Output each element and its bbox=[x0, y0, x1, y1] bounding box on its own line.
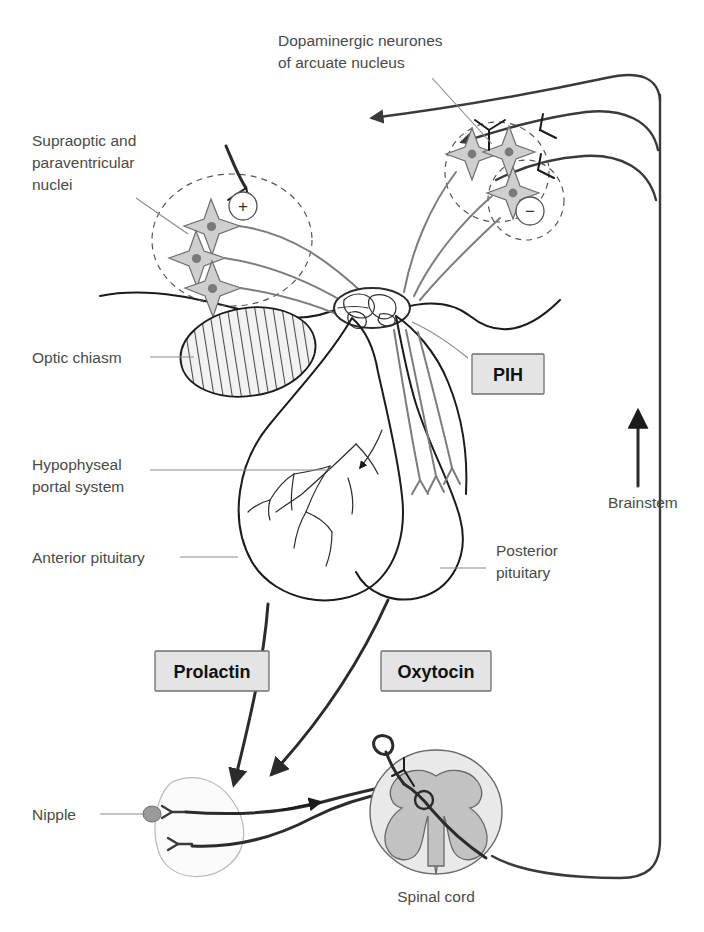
excitatory-sign-label: + bbox=[238, 197, 248, 216]
hypophyseal-label: Hypophyseal portal system bbox=[32, 456, 330, 495]
pih-box-label: PIH bbox=[493, 365, 523, 385]
hypophyseal-label-line2: portal system bbox=[32, 478, 124, 495]
hypophyseal-portal-vessels bbox=[248, 444, 378, 566]
supraoptic-label: Supraoptic and paraventricular nuclei bbox=[32, 132, 188, 234]
dopaminergic-label-line1: Dopaminergic neurones bbox=[278, 32, 443, 49]
excitatory-sign-badge: + bbox=[229, 192, 257, 220]
oxytocin-box-label: Oxytocin bbox=[397, 662, 474, 682]
inhibitory-sign-label: − bbox=[525, 202, 535, 221]
posterior-pituitary-label-line1: Posterior bbox=[496, 542, 558, 559]
oxytocin-box[interactable]: Oxytocin bbox=[381, 651, 491, 691]
oxytocin-arrow bbox=[272, 600, 388, 774]
posterior-pituitary-label-line2: pituitary bbox=[496, 564, 551, 581]
nipple-label-text: Nipple bbox=[32, 806, 76, 823]
spinal-cord-section bbox=[370, 736, 502, 874]
afferent-direction-arrow bbox=[282, 802, 320, 810]
optic-chiasm-label-text: Optic chiasm bbox=[32, 349, 122, 366]
inhibitory-sign-badge: − bbox=[516, 197, 544, 225]
anatomical-diagram: + bbox=[0, 0, 704, 932]
dopaminergic-label-line2: of arcuate nucleus bbox=[278, 54, 405, 71]
dopaminergic-label: Dopaminergic neurones of arcuate nucleus bbox=[278, 32, 492, 144]
pih-box[interactable]: PIH bbox=[472, 354, 544, 394]
median-eminence-plexus bbox=[334, 288, 410, 329]
prolactin-arrow bbox=[234, 604, 268, 784]
optic-chiasm-label: Optic chiasm bbox=[32, 349, 194, 366]
posterior-pituitary-shape bbox=[356, 316, 463, 600]
brainstem-label-text: Brainstem bbox=[608, 494, 678, 511]
diagram-canvas: + bbox=[0, 0, 704, 932]
brainstem-label: Brainstem bbox=[608, 494, 678, 511]
anterior-pituitary-label: Anterior pituitary bbox=[32, 549, 238, 566]
supraoptic-label-line3: nuclei bbox=[32, 176, 73, 193]
supraoptic-label-line1: Supraoptic and bbox=[32, 132, 136, 149]
anterior-pituitary-label-text: Anterior pituitary bbox=[32, 549, 145, 566]
hypophyseal-label-line1: Hypophyseal bbox=[32, 456, 122, 473]
spinal-cord-label: Spinal cord bbox=[397, 888, 475, 905]
hormone-output-arrows bbox=[234, 600, 388, 784]
nipple-label: Nipple bbox=[32, 806, 146, 823]
posterior-pituitary-label: Posterior pituitary bbox=[440, 542, 558, 581]
supraoptic-label-line2: paraventricular bbox=[32, 154, 135, 171]
breast-and-nipple bbox=[143, 778, 404, 877]
prolactin-box-label: Prolactin bbox=[173, 662, 250, 682]
spinal-cord-label-text: Spinal cord bbox=[397, 888, 475, 905]
prolactin-box[interactable]: Prolactin bbox=[155, 651, 269, 691]
